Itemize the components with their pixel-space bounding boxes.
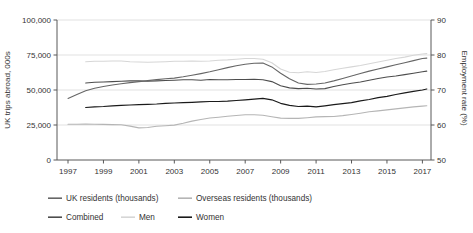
left-axis-tick-label: 50,000	[27, 86, 52, 95]
dual-axis-line-chart: 025,00050,00075,000100,00050607080901997…	[0, 0, 473, 233]
left-axis-tick-label: 75,000	[27, 51, 52, 60]
x-axis-tick-label: 2007	[236, 167, 254, 176]
right-axis-tick-label: 70	[437, 86, 446, 95]
x-axis-tick-label: 1999	[95, 167, 113, 176]
legend-label-4: Women	[196, 213, 225, 222]
x-axis-tick-label: 2009	[272, 167, 290, 176]
x-axis-tick-label: 2005	[201, 167, 219, 176]
left-axis-tick-label: 0	[47, 156, 52, 165]
right-axis-tick-label: 60	[437, 121, 446, 130]
right-axis-tick-label: 50	[437, 156, 446, 165]
legend-label-3: Men	[139, 213, 155, 222]
series-line-combined	[86, 71, 427, 89]
right-axis-title: Employment rate (%)	[460, 50, 469, 125]
chart-canvas: 025,00050,00075,000100,00050607080901997…	[0, 0, 473, 233]
x-axis-tick-label: 2011	[307, 167, 325, 176]
series-line-overseas-residents-thousands	[68, 106, 427, 128]
series-line-uk-residents-thousands	[68, 58, 427, 98]
right-axis-tick-label: 90	[437, 16, 446, 25]
x-axis-tick-label: 2015	[378, 167, 396, 176]
x-axis-tick-label: 2001	[130, 167, 148, 176]
x-axis-tick-label: 2003	[165, 167, 183, 176]
x-axis-tick-label: 2013	[343, 167, 361, 176]
x-axis-tick-label: 2017	[414, 167, 432, 176]
legend-label-1: Overseas residents (thousands)	[196, 194, 312, 203]
x-axis-tick-label: 1997	[59, 167, 77, 176]
legend-label-2: Combined	[66, 213, 104, 222]
legend-label-0: UK residents (thousands)	[66, 194, 159, 203]
left-axis-tick-label: 25,000	[27, 121, 52, 130]
series-line-women	[86, 89, 427, 108]
right-axis-tick-label: 80	[437, 51, 446, 60]
left-axis-title: UK trips abroad, 000s	[3, 51, 12, 128]
left-axis-tick-label: 100,000	[22, 16, 51, 25]
